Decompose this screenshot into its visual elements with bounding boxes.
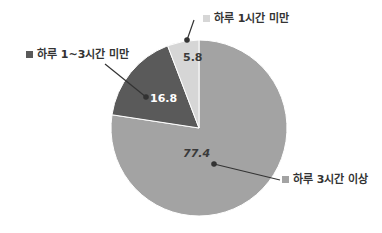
legend-under-1h: 하루 1시간 미만 bbox=[203, 11, 289, 25]
legend-swatch-1-3h bbox=[26, 51, 33, 58]
value-label-under-1h: 5.8 bbox=[183, 51, 203, 64]
pie-slices bbox=[111, 40, 287, 216]
legend-label-under-1h: 하루 1시간 미만 bbox=[214, 11, 289, 25]
legend-3h-plus: 하루 3시간 이상 bbox=[282, 172, 368, 186]
legend-swatch-under-1h bbox=[203, 15, 210, 22]
legend-label-3h-plus: 하루 3시간 이상 bbox=[293, 172, 368, 186]
legend-1-3h: 하루 1~3시간 미만 bbox=[26, 47, 129, 61]
pie-chart: 77.4 16.8 5.8 하루 3시간 이상 하루 1~3시간 미만 하루 1… bbox=[0, 0, 382, 233]
legend-swatch-3h-plus bbox=[282, 176, 289, 183]
value-label-1-3h: 16.8 bbox=[150, 92, 177, 105]
value-label-3h-plus: 77.4 bbox=[183, 147, 210, 160]
legend-label-1-3h: 하루 1~3시간 미만 bbox=[37, 47, 129, 61]
